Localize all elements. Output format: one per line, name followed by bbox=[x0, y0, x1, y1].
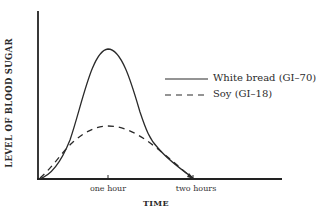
series-soy-line bbox=[40, 126, 192, 178]
x-tick-label-two-hours: two hours bbox=[176, 184, 216, 193]
series-white-bread-line bbox=[39, 49, 193, 179]
y-axis-label: LEVEL OF BLOOD SUGAR bbox=[4, 28, 14, 178]
x-tick-label-one-hour: one hour bbox=[90, 184, 126, 193]
x-axis-label-wrap: TIME bbox=[0, 198, 324, 208]
legend-soy: Soy (GI–18) bbox=[213, 88, 272, 99]
x-axis-label: TIME bbox=[143, 198, 169, 208]
legend-white-bread: White bread (GI–70) bbox=[213, 72, 316, 83]
chart-canvas bbox=[0, 0, 324, 212]
